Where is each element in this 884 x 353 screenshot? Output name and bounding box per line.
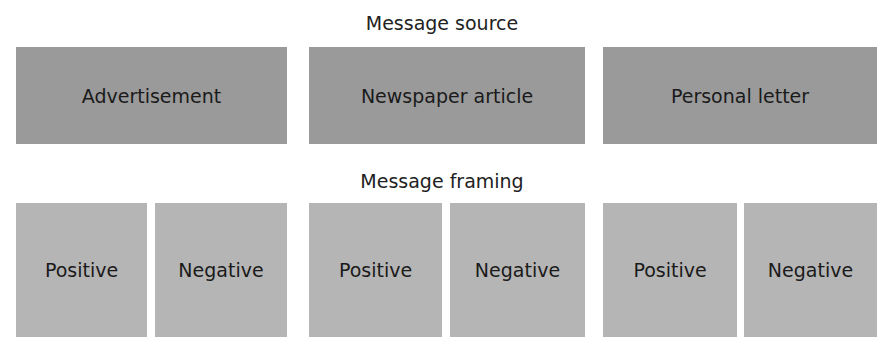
framing-label: Positive — [339, 259, 412, 281]
framing-label: Negative — [768, 259, 853, 281]
framing-label: Positive — [45, 259, 118, 281]
framing-box-letter-negative: Negative — [744, 203, 877, 337]
message-source-heading: Message source — [0, 12, 884, 34]
source-label: Personal letter — [671, 85, 809, 107]
source-box-newspaper-article: Newspaper article — [309, 47, 585, 144]
framing-box-newspaper-negative: Negative — [450, 203, 585, 337]
source-box-personal-letter: Personal letter — [603, 47, 877, 144]
source-label: Newspaper article — [361, 85, 533, 107]
framing-label: Positive — [633, 259, 706, 281]
framing-label: Negative — [475, 259, 560, 281]
framing-box-newspaper-positive: Positive — [309, 203, 442, 337]
framing-label: Negative — [178, 259, 263, 281]
message-framing-heading: Message framing — [0, 170, 884, 192]
source-label: Advertisement — [82, 85, 221, 107]
framing-box-advertisement-positive: Positive — [16, 203, 147, 337]
source-box-advertisement: Advertisement — [16, 47, 287, 144]
framing-box-advertisement-negative: Negative — [155, 203, 287, 337]
framing-box-letter-positive: Positive — [603, 203, 737, 337]
